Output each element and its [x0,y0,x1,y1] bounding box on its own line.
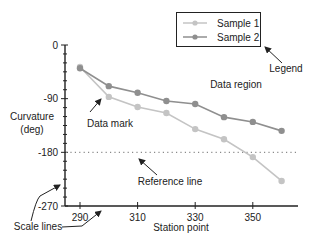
y-tick-label: -90 [44,93,59,104]
data-point [163,98,169,104]
annotation-data-mark: Data mark [87,118,134,129]
data-point [250,154,256,160]
x-axis-label: Station point [153,222,209,233]
data-point [163,110,169,116]
x-tick-label: 350 [244,212,261,223]
annotation-data-mark-arrow [90,99,101,112]
data-point [278,178,284,184]
legend-label-sample-2: Sample 2 [217,32,260,43]
annotation-legend: Legend [269,63,302,74]
data-point [278,128,284,134]
data-point [77,65,83,71]
legend-marker-sample-1 [192,20,197,25]
annotation-scale-lines: Scale lines [14,221,62,232]
y-tick-label: 0 [52,40,58,51]
data-point [134,104,140,110]
line-chart: 0-90-180-270 290310330350 Curvature (deg… [0,0,316,248]
legend: Sample 1 Sample 2 [177,13,261,47]
x-tick-label: 290 [72,212,89,223]
data-point [192,126,198,132]
y-axis-label-line1: Curvature [10,111,54,122]
legend-marker-sample-2 [192,34,197,39]
data-point [221,136,227,142]
y-tick-label: -180 [38,147,58,158]
data-point [250,119,256,125]
x-tick-label: 310 [129,212,146,223]
annotation-data-region: Data region [210,79,262,90]
annotation-reference-line: Reference line [138,176,203,187]
data-point [106,94,112,100]
x-axis: 290310330350 [65,202,298,223]
annotation-reference-line-arrow [139,159,157,175]
y-axis-label-line2: (deg) [20,124,43,135]
data-point [221,114,227,120]
legend-label-sample-1: Sample 1 [217,18,260,29]
annotation-legend-arrow [265,47,282,63]
y-tick-label: -270 [38,201,58,212]
data-point [106,83,112,89]
data-point [134,90,140,96]
data-point [192,101,198,107]
